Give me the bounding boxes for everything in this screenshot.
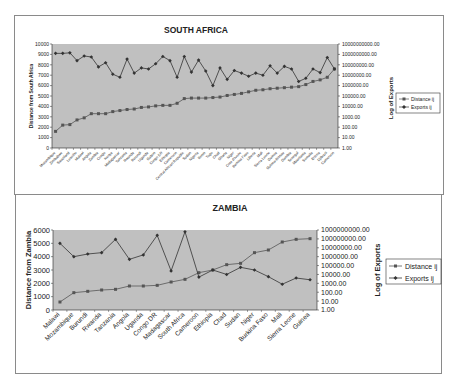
x-axis-labels: MozambiqueZimbabweSwazilandLesothoMalawi… xyxy=(39,148,338,181)
right-axis-label: Log of Exports xyxy=(388,76,394,119)
distance-point xyxy=(304,83,307,86)
right-tick-label: 1.00 xyxy=(342,145,352,151)
distance-point xyxy=(233,93,236,96)
left-tick-label: 10000 xyxy=(35,41,49,47)
left-tick-label: 1000 xyxy=(38,134,49,140)
legend-distance: Distance ij xyxy=(411,96,434,102)
distance-point xyxy=(247,90,250,93)
distance-point xyxy=(83,116,86,119)
legend: Distance ij Exports ij xyxy=(396,93,440,113)
left-tick-label: 3000 xyxy=(33,266,50,275)
distance-point xyxy=(197,97,200,100)
distance-point xyxy=(226,94,229,97)
x-tick-label: Sudan xyxy=(223,310,242,329)
right-axis-label: Log of Exports xyxy=(373,244,382,297)
distance-point xyxy=(104,112,107,115)
distance-point xyxy=(190,97,193,100)
chart-title: ZAMBIA xyxy=(213,203,248,213)
right-tick-label: 100000000.00 xyxy=(321,235,366,242)
right-tick-label: 1000.00 xyxy=(342,114,360,120)
distance-point xyxy=(76,118,79,121)
left-tick-label: 5000 xyxy=(38,93,49,99)
charts-canvas: SOUTH AFRICA 010002000300040005000600070… xyxy=(0,0,454,378)
distance-point xyxy=(183,97,186,100)
distance-point xyxy=(281,241,284,244)
distance-point xyxy=(111,110,114,113)
left-tick-label: 9000 xyxy=(38,51,49,57)
right-tick-label: 10000.00 xyxy=(321,271,350,278)
distance-point xyxy=(72,291,75,294)
distance-point xyxy=(297,85,300,88)
left-tick-label: 7000 xyxy=(38,72,49,78)
distance-point xyxy=(225,263,228,266)
right-tick-label: 100000.00 xyxy=(342,93,366,99)
distance-point xyxy=(240,92,243,95)
distance-point xyxy=(269,87,272,90)
left-tick-label: 4000 xyxy=(38,103,49,109)
left-tick-label: 8000 xyxy=(38,62,49,68)
right-tick-label: 100.00 xyxy=(321,289,343,296)
legend-exports: Exports ij xyxy=(411,104,432,110)
distance-point xyxy=(61,124,64,127)
right-tick-label: 10000000.00 xyxy=(342,72,371,78)
distance-point xyxy=(97,112,100,115)
right-tick-label: 10000.00 xyxy=(342,103,363,109)
distance-point xyxy=(54,130,57,133)
distance-point xyxy=(267,249,270,252)
south-africa-chart: SOUTH AFRICA 010002000300040005000600070… xyxy=(28,25,440,181)
distance-point xyxy=(184,278,187,281)
right-tick-label: 100000.00 xyxy=(321,262,354,269)
left-tick-label: 6000 xyxy=(38,82,49,88)
right-axis: 1.0010.00100.001000.0010000.00100000.001… xyxy=(317,226,370,313)
distance-point xyxy=(168,104,171,107)
distance-point xyxy=(319,78,322,81)
distance-point xyxy=(253,251,256,254)
distance-point xyxy=(133,108,136,111)
distance-point xyxy=(58,301,61,304)
distance-point xyxy=(176,102,179,105)
distance-point xyxy=(128,285,131,288)
distance-marker-icon xyxy=(394,265,397,268)
distance-point xyxy=(126,108,129,111)
right-axis: 1.0010.00100.001000.0010000.00100000.001… xyxy=(338,41,380,151)
distance-point xyxy=(239,262,242,265)
left-axis: 0100020003000400050006000700080009000100… xyxy=(35,41,52,151)
distance-point xyxy=(211,96,214,99)
distance-point xyxy=(140,106,143,109)
distance-point xyxy=(170,281,173,284)
legend-exports: Exports ij xyxy=(405,275,434,283)
distance-point xyxy=(86,290,89,293)
left-tick-label: 2000 xyxy=(33,279,50,288)
left-tick-label: 6000 xyxy=(33,226,50,235)
distance-point xyxy=(118,109,121,112)
x-axis-labels: MalawiMozambiqueBurundiRwandaTanzaniaAng… xyxy=(41,310,317,343)
distance-point xyxy=(276,87,279,90)
left-axis-label: Distance from South Africa xyxy=(28,64,34,128)
distance-point xyxy=(100,289,103,292)
distance-point xyxy=(283,86,286,89)
right-tick-label: 1.00 xyxy=(321,306,335,313)
right-tick-label: 10.00 xyxy=(342,134,355,140)
distance-point xyxy=(295,238,298,241)
right-tick-label: 10000000000.00 xyxy=(342,41,380,47)
right-tick-label: 100.00 xyxy=(342,124,358,130)
distance-point xyxy=(68,123,71,126)
distance-point xyxy=(290,86,293,89)
left-tick-label: 3000 xyxy=(38,114,49,120)
distance-point xyxy=(90,112,93,115)
left-tick-label: 5000 xyxy=(33,239,50,248)
distance-point xyxy=(204,97,207,100)
legend-distance: Distance ij xyxy=(405,263,438,271)
distance-point xyxy=(219,96,222,99)
distance-marker-icon xyxy=(403,98,406,101)
distance-point xyxy=(147,105,150,108)
zambia-chart: ZAMBIA 0100020003000400050006000 1.0010.… xyxy=(24,203,441,343)
distance-point xyxy=(142,285,145,288)
distance-point xyxy=(261,88,264,91)
right-tick-label: 1000000000.00 xyxy=(342,51,377,57)
left-tick-label: 0 xyxy=(46,145,49,151)
left-tick-label: 4000 xyxy=(33,252,50,261)
legend: Distance ij Exports ij xyxy=(386,259,441,284)
distance-point xyxy=(326,76,329,79)
right-tick-label: 1000000000.00 xyxy=(321,226,370,233)
